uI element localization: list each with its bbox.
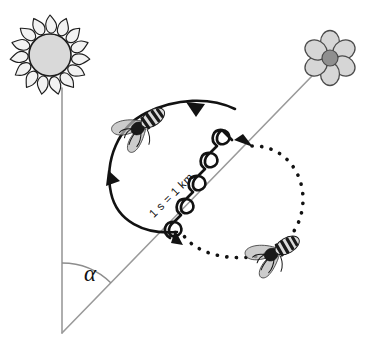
angle-label: α bbox=[84, 261, 97, 286]
waggle-dance-diagram: α 1 s = 1 km bbox=[0, 0, 366, 350]
bee-icon-lower bbox=[243, 224, 308, 283]
left-loop-side-arrowhead bbox=[106, 170, 120, 186]
sun-icon bbox=[10, 15, 91, 96]
left-loop-top-arrowhead bbox=[186, 102, 205, 117]
flower-center bbox=[322, 50, 338, 66]
diagram-canvas: α 1 s = 1 km bbox=[0, 0, 366, 350]
sun-disk bbox=[29, 34, 71, 76]
flower-direction-line bbox=[62, 76, 312, 333]
reference-lines bbox=[62, 76, 312, 333]
